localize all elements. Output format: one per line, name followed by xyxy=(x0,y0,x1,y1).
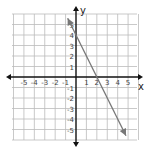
axes xyxy=(6,6,143,147)
y-tick-label: -5 xyxy=(67,127,74,135)
x-tick-label: 1 xyxy=(84,79,88,87)
x-tick-label: -2 xyxy=(52,79,59,87)
x-tick-label: 5 xyxy=(126,79,130,87)
y-tick-label: 2 xyxy=(70,53,74,61)
x-tick-label: 4 xyxy=(115,79,120,87)
y-tick-label: -3 xyxy=(67,106,74,114)
x-axis-arrow-right-icon xyxy=(138,74,143,80)
coordinate-plane: -5-4-3-2-11234554321-1-2-3-4-5 x y xyxy=(0,0,145,150)
x-tick-label: -4 xyxy=(31,79,39,87)
x-axis-arrow-left-icon xyxy=(6,74,11,80)
y-axis-arrow-up-icon xyxy=(73,6,79,11)
y-tick-label: -4 xyxy=(67,116,75,124)
y-tick-label: 3 xyxy=(70,43,74,51)
x-tick-label: 3 xyxy=(105,79,109,87)
y-tick-label: 1 xyxy=(70,64,74,72)
y-tick-label: -1 xyxy=(67,85,74,93)
y-tick-label: 4 xyxy=(70,32,75,40)
x-tick-label: -5 xyxy=(20,79,27,87)
x-tick-label: -3 xyxy=(41,79,48,87)
y-tick-label: -2 xyxy=(67,95,74,103)
y-axis-label: y xyxy=(80,5,86,16)
y-axis-arrow-down-icon xyxy=(73,142,79,147)
x-axis-label: x xyxy=(138,81,144,92)
